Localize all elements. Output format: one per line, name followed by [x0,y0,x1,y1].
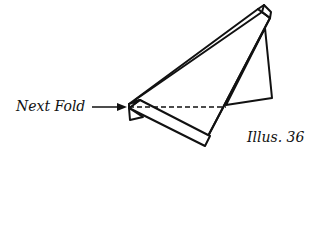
next-fold-label: Next Fold [16,98,85,114]
arrow-head-icon [117,103,127,111]
illustration-number: Illus. 36 [247,129,304,145]
